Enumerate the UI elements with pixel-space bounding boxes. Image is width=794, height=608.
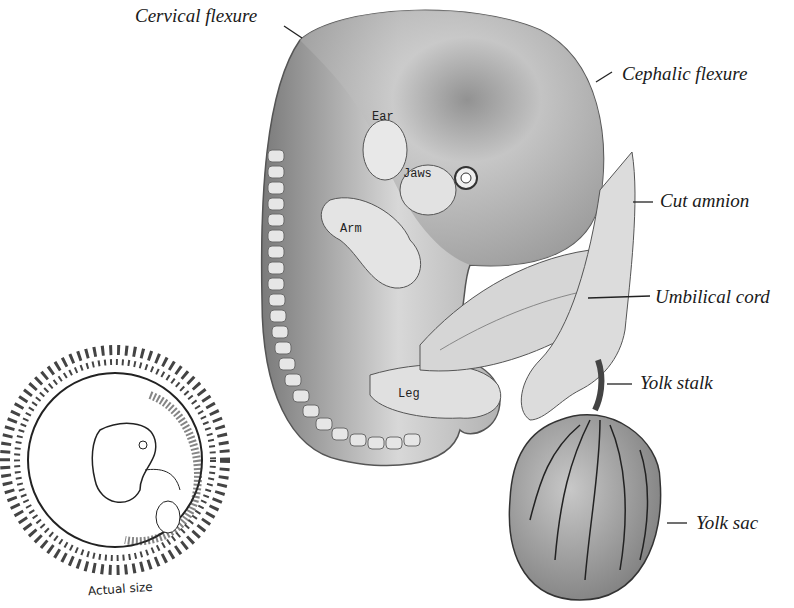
label-yolk-sac: Yolk sac: [696, 512, 758, 534]
label-cut-amnion: Cut amnion: [660, 190, 749, 212]
label-yolk-stalk: Yolk stalk: [640, 372, 713, 394]
label-arm: Arm: [340, 222, 362, 236]
label-cervical-flexure: Cervical flexure: [135, 5, 257, 27]
inset-actual-size: [5, 350, 225, 570]
label-ear: Ear: [372, 110, 394, 124]
label-leg: Leg: [398, 387, 420, 401]
label-cephalic-flexure: Cephalic flexure: [622, 63, 747, 85]
label-umbilical-cord: Umbilical cord: [655, 286, 770, 308]
label-jaws: Jaws: [403, 167, 432, 181]
